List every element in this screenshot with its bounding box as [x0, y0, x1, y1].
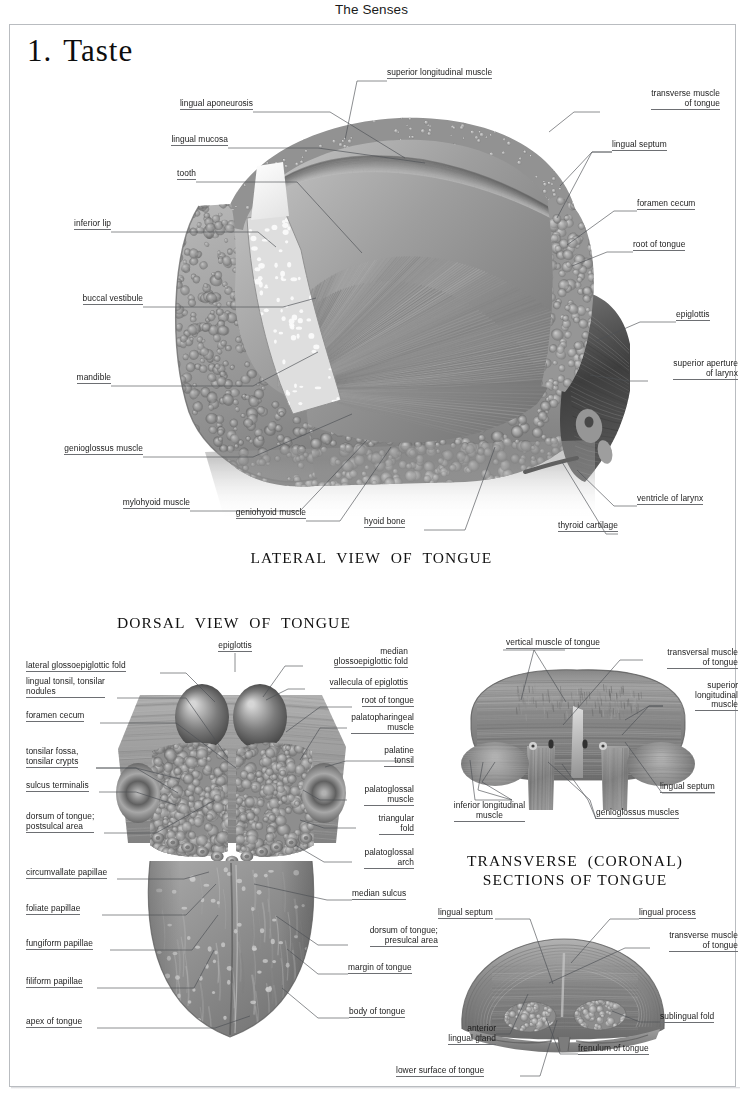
label-palatoglossal-muscle: palatoglossal muscle	[347, 785, 414, 806]
label-mandible: mandible	[51, 373, 111, 384]
label-palatopharingeal-muscle: palatopharingeal muscle	[347, 713, 414, 734]
label-lingual-aponeurosis: lingual aponeurosis	[103, 99, 253, 110]
page-title: 1.Taste	[27, 33, 133, 69]
label-superior-aperture-of-larynx: superior aperture of larynx	[633, 359, 738, 380]
label-lower-surface-of-tongue: lower surface of tongue	[396, 1066, 520, 1077]
label-epiglottis-dorsal: epiglottis	[205, 641, 265, 652]
label-transverse-muscle-of-tongue-coronal: transverse muscle of tongue	[650, 931, 738, 952]
caption-transverse-sections: TRANSVERSE (CORONAL) SECTIONS OF TONGUE	[420, 851, 730, 889]
label-sublingual-fold: sublingual fold	[660, 1012, 738, 1023]
label-filiform-papillae: filiform papillae	[26, 977, 106, 988]
label-tonsilar-fossa-crypts: tonsilar fossa, tonsilar crypts	[26, 747, 106, 768]
label-root-of-tongue-dorsal: root of tongue	[352, 696, 414, 707]
label-lingual-mucosa: lingual mucosa	[108, 135, 228, 146]
label-inferior-lip: inferior lip	[41, 219, 111, 230]
label-foramen-cecum-dorsal: foramen cecum	[26, 711, 106, 722]
label-lingual-septum-coronal-lower: lingual septum	[438, 908, 516, 919]
label-inferior-longitudinal-muscle: inferior longitudinal muscle	[438, 801, 541, 822]
label-margin-of-tongue: margin of tongue	[348, 963, 428, 974]
label-frenulum-of-tongue: frenulum of tongue	[578, 1044, 674, 1055]
label-foramen-cecum-lateral: foramen cecum	[637, 199, 737, 210]
label-tooth: tooth	[136, 169, 196, 180]
label-epiglottis-lateral: epiglottis	[676, 310, 736, 321]
label-anterior-lingual-gland: anterior lingual gland	[428, 1024, 496, 1045]
label-vallecula-of-epiglottis: vallecula of epiglottis	[305, 678, 408, 689]
caption-lateral-view: LATERAL VIEW OF TONGUE	[0, 549, 743, 567]
label-fungiform-papillae: fungiform papillae	[26, 939, 116, 950]
label-transversal-muscle-of-tongue: transversal muscle of tongue	[643, 648, 738, 669]
label-dorsum-of-tongue-presulcal: dorsum of tongue; presulcal area	[348, 926, 438, 947]
label-lateral-glossoepiglottic-fold: lateral glossoepiglottic fold	[26, 661, 161, 672]
textbook-page: The Senses 1.Taste	[0, 0, 743, 1111]
label-buccal-vestibule: buccal vestibule	[63, 294, 143, 305]
label-superior-longitudinal-muscle-coronal: superior longitudinal muscle	[655, 681, 738, 711]
label-median-glossoepiglottic-fold: median glossoepiglottic fold	[303, 647, 408, 668]
label-lingual-septum-lateral: lingual septum	[612, 140, 722, 151]
label-body-of-tongue: body of tongue	[349, 1007, 429, 1018]
label-vertical-muscle-of-tongue: vertical muscle of tongue	[488, 638, 618, 649]
chapter-number: 1.	[27, 33, 52, 68]
label-transverse-muscle-of-tongue-lateral: transverse muscle of tongue	[600, 89, 720, 110]
label-apex-of-tongue: apex of tongue	[26, 1017, 106, 1028]
label-palatoglossal-arch: palatoglossal arch	[352, 848, 414, 869]
page-frame-shadow	[11, 1087, 740, 1089]
label-circumvallate-papillae: circumvallate papillae	[26, 868, 131, 879]
label-thyroid-cartilage: thyroid cartilage	[538, 521, 618, 532]
label-ventricle-of-larynx: ventricle of larynx	[637, 494, 737, 505]
label-hyoid-bone: hyoid bone	[364, 517, 424, 528]
label-lingual-septum-coronal-upper: lingual septum	[660, 782, 738, 793]
label-geniohyoid-muscle: geniohyoid muscle	[206, 508, 306, 519]
label-superior-longitudinal-muscle: superior longitudinal muscle	[387, 68, 527, 79]
label-mylohyoid-muscle: mylohyoid muscle	[90, 498, 190, 509]
caption-dorsal-view: DORSAL VIEW OF TONGUE	[64, 614, 404, 632]
dorsal-view-illustration	[110, 655, 355, 1055]
label-root-of-tongue-lateral: root of tongue	[633, 240, 733, 251]
label-genioglossus-muscle: genioglossus muscle	[38, 444, 143, 455]
running-head: The Senses	[0, 2, 743, 17]
chapter-title-text: Taste	[63, 33, 133, 68]
label-lingual-tonsil-tonsilar-nodules: lingual tonsil, tonsilar nodules	[26, 677, 121, 698]
label-foliate-papillae: foliate papillae	[26, 904, 106, 915]
label-palatine-tonsil: palatine tonsil	[358, 746, 414, 767]
label-genioglossus-muscles: genioglossus muscles	[596, 808, 706, 819]
label-median-sulcus: median sulcus	[352, 889, 422, 900]
label-triangular-fold: triangular fold	[356, 814, 414, 835]
label-dorsum-of-tongue-postsulcal: dorsum of tongue; postsulcal area	[26, 812, 116, 833]
label-lingual-process: lingual process	[639, 908, 719, 919]
label-sulcus-terminalis: sulcus terminalis	[26, 781, 106, 792]
lateral-view-illustration	[165, 100, 630, 530]
